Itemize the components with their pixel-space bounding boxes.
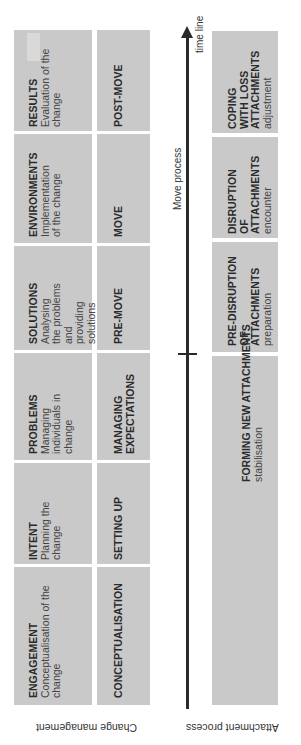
phase-title: RESULTS — [28, 32, 40, 127]
phase-intent: INTENT Planning the change — [14, 463, 92, 564]
phase-desc: Evaluation of the change — [40, 47, 63, 127]
stage-move: MOVE — [97, 134, 150, 243]
phase-desc: Managing individuals in change — [40, 392, 75, 454]
phase-solutions: SOLUTIONS Analysing the problems and pro… — [14, 246, 92, 350]
attachment-title: FORMING NEW ATTACHMENTS — [241, 322, 253, 482]
attachment-title: COPING WITH LOSS ATTACHMENTS — [227, 59, 262, 129]
attachment-forming: FORMING NEW ATTACHMENTS stabilisation — [212, 356, 278, 705]
attachment-disruption: DISRUPTION OF ATTACHMENTS encounter — [212, 137, 278, 238]
phase-problems: PROBLEMS Managing individuals in change — [14, 353, 92, 460]
stage-pre-move: PRE-MOVE — [97, 246, 150, 350]
attachment-coping: COPING WITH LOSS ATTACHMENTS adjustment — [212, 31, 278, 133]
phase-title: ENGAGEMENT — [28, 568, 40, 698]
phase-desc: Implementation of the change — [40, 155, 63, 237]
change-management-label: Change management — [36, 722, 137, 734]
timeline-axis — [186, 36, 189, 709]
phase-title: ENVIRONMENTS — [28, 137, 40, 237]
time-line-label: time line — [194, 16, 205, 53]
stage-conceptualisation: CONCEPTUALISATION — [97, 567, 150, 705]
attachment-title: DISRUPTION OF ATTACHMENTS — [227, 159, 262, 234]
phase-results: RESULTS Evaluation of the change — [14, 30, 92, 131]
stage-title: POST-MOVE — [113, 32, 125, 127]
attachment-desc: stabilisation — [253, 322, 265, 482]
phase-title: SOLUTIONS — [28, 249, 40, 344]
attachment-desc: encounter — [262, 139, 274, 234]
phase-environments: ENVIRONMENTS Implementation of the chang… — [14, 134, 92, 243]
timeline-tick — [178, 353, 197, 355]
phase-desc: Planning the change — [40, 500, 63, 560]
stage-title: SETTING UP — [113, 465, 125, 560]
stage-title: MOVE — [113, 137, 125, 237]
phase-desc: Conceptualisation of the change — [40, 573, 63, 698]
move-process-label: Move process — [172, 148, 183, 210]
phase-title: PROBLEMS — [28, 359, 40, 454]
stage-title: CONCEPTUALISATION — [113, 568, 125, 698]
stage-setting-up: SETTING UP — [97, 463, 150, 564]
stage-post-move: POST-MOVE — [97, 30, 150, 131]
stage-title: MANAGING EXPECTATIONS — [113, 374, 136, 454]
attachment-process-label: Attachment process — [186, 722, 279, 734]
phase-title: INTENT — [28, 465, 40, 560]
phase-engagement: ENGAGEMENT Conceptualisation of the chan… — [14, 567, 92, 705]
stage-title: PRE-MOVE — [113, 249, 125, 344]
stage-managing-expectations: MANAGING EXPECTATIONS — [97, 353, 150, 460]
attachment-desc: adjustment — [262, 34, 274, 129]
phase-desc: Analysing the problems and providing sol… — [40, 282, 98, 344]
